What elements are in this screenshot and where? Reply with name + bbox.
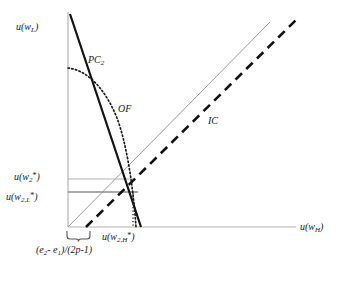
economics-diagram: u(wL) u(wH) PC2 OF IC u(w2*) u(w2,L*) u(… [0,0,351,282]
ic-label: IC [208,116,218,126]
of-curve [68,68,136,227]
ic-curve [86,20,296,227]
pc2-label: PC2 [88,55,104,67]
of-label: OF [118,104,131,114]
measure-brace [67,231,90,242]
u-w2-star-label: u(w2*) [14,172,40,184]
x-axis-label: u(wH) [300,222,323,234]
plot-canvas [0,0,351,282]
pc2-curve [70,14,141,227]
brace-expression-label: (e2- e1)/(2p-1) [36,245,92,257]
forty-five-degree-line [68,22,270,227]
u-w2L-star-label: u(w2,L*) [6,192,38,204]
y-axis-label: u(wL) [16,22,38,34]
u-w2H-star-label: u(w2,H*) [102,232,135,244]
